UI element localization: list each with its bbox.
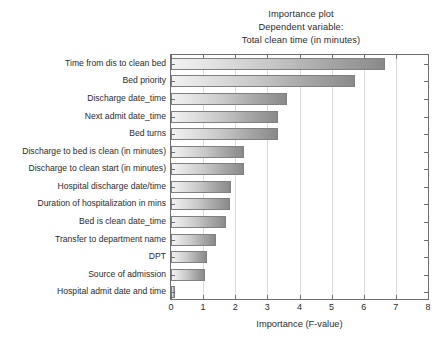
y-axis-tick	[171, 240, 175, 241]
x-axis-tick	[171, 295, 172, 299]
y-axis-tick	[171, 152, 175, 153]
x-axis-tick-top	[171, 55, 172, 59]
y-axis-tick	[171, 222, 175, 223]
y-axis-tick-right	[424, 64, 428, 65]
x-axis-tick-top	[267, 55, 268, 59]
x-axis-tick-label: 7	[386, 302, 406, 312]
x-axis-tick-top	[396, 55, 397, 59]
x-axis-tick-labels: 012345678	[170, 302, 429, 316]
x-axis-tick-top	[332, 55, 333, 59]
y-axis-tick	[171, 117, 175, 118]
axis-ticks-layer	[171, 55, 428, 299]
y-axis-tick-right	[424, 134, 428, 135]
x-axis-tick-label: 8	[418, 302, 438, 312]
x-axis-tick-label: 4	[290, 302, 310, 312]
y-axis-tick	[171, 64, 175, 65]
x-axis-tick	[267, 295, 268, 299]
y-axis-tick	[171, 134, 175, 135]
y-axis-tick-right	[424, 187, 428, 188]
y-axis-category-label: Discharge date_time	[87, 93, 166, 103]
y-axis-tick-right	[424, 257, 428, 258]
y-axis-tick-right	[424, 204, 428, 205]
x-axis-tick-top	[364, 55, 365, 59]
y-axis-tick-right	[424, 275, 428, 276]
chart-title: Importance plot	[168, 8, 434, 21]
x-axis-tick-label: 3	[257, 302, 277, 312]
x-axis-tick	[300, 295, 301, 299]
x-axis-title: Importance (F-value)	[170, 319, 429, 329]
y-axis-category-label: Discharge to clean start (in minutes)	[28, 163, 166, 173]
y-axis-tick	[171, 292, 175, 293]
y-axis-category-label: Time from dis to clean bed	[65, 58, 166, 68]
x-axis-tick	[203, 295, 204, 299]
x-axis-tick-label: 2	[225, 302, 245, 312]
x-axis-tick-label: 0	[161, 302, 181, 312]
y-axis-tick-right	[424, 169, 428, 170]
y-axis-tick-right	[424, 81, 428, 82]
x-axis-tick-top	[428, 55, 429, 59]
x-axis-tick-label: 1	[193, 302, 213, 312]
x-axis-tick	[364, 295, 365, 299]
y-axis-tick	[171, 257, 175, 258]
plot-area	[170, 54, 429, 300]
y-axis-category-label: Bed turns	[129, 128, 166, 138]
y-axis-category-label: DPT	[149, 251, 166, 261]
x-axis-tick-top	[235, 55, 236, 59]
y-axis-category-labels: Time from dis to clean bedBed priorityDi…	[0, 54, 166, 300]
x-axis-tick-top	[203, 55, 204, 59]
y-axis-tick-right	[424, 222, 428, 223]
y-axis-tick-right	[424, 117, 428, 118]
y-axis-category-label: Bed priority	[123, 75, 166, 85]
y-axis-category-label: Hospital discharge date/time	[58, 181, 166, 191]
y-axis-tick-right	[424, 292, 428, 293]
y-axis-tick	[171, 81, 175, 82]
y-axis-category-label: Source of admission	[88, 269, 166, 279]
y-axis-category-label: Transfer to department name	[55, 234, 166, 244]
y-axis-tick	[171, 99, 175, 100]
y-axis-category-label: Duration of hospitalization in mins	[38, 198, 167, 208]
y-axis-category-label: Next admit date_time	[85, 111, 166, 121]
x-axis-tick-label: 6	[354, 302, 374, 312]
y-axis-tick-right	[424, 240, 428, 241]
y-axis-category-label: Bed is clean date_time	[79, 216, 166, 226]
y-axis-tick	[171, 204, 175, 205]
y-axis-tick-right	[424, 152, 428, 153]
y-axis-category-label: Hospital admit date and time	[57, 286, 166, 296]
x-axis-tick	[235, 295, 236, 299]
x-axis-tick-top	[300, 55, 301, 59]
x-axis-tick	[428, 295, 429, 299]
chart-title-block: Importance plot Dependent variable: Tota…	[168, 8, 434, 47]
x-axis-tick-label: 5	[322, 302, 342, 312]
importance-plot-figure: Importance plot Dependent variable: Tota…	[0, 0, 446, 343]
x-axis-tick	[332, 295, 333, 299]
y-axis-tick	[171, 169, 175, 170]
y-axis-tick	[171, 187, 175, 188]
y-axis-category-label: Discharge to bed is clean (in minutes)	[22, 146, 166, 156]
chart-subtitle-secondary: Total clean time (in minutes)	[168, 34, 434, 47]
y-axis-tick-right	[424, 99, 428, 100]
y-axis-tick	[171, 275, 175, 276]
chart-subtitle: Dependent variable:	[168, 21, 434, 34]
x-axis-tick	[396, 295, 397, 299]
